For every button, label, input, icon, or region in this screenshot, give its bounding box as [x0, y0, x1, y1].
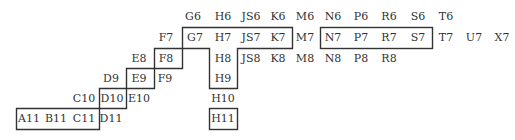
cell-label-b11: B11 — [45, 112, 67, 125]
cell-label-c11: C11 — [73, 112, 95, 125]
cell-label-js7: JS7 — [242, 31, 261, 44]
cell-label-js6: JS6 — [242, 10, 261, 23]
cell-label-k6: K6 — [270, 10, 285, 23]
cell-label-d11: D11 — [100, 112, 123, 125]
cell-label-t7: T7 — [439, 31, 453, 44]
cell-label-js8: JS8 — [242, 52, 261, 65]
grid-diagram: G6H6JS6K6M6N6P6R6S6T6F7G7H7JS7K7M7N7P7R7… — [0, 0, 515, 140]
cell-label-s7: S7 — [411, 31, 426, 44]
cell-label-r7: R7 — [381, 31, 396, 44]
cell-label-f8: F8 — [159, 52, 174, 65]
cell-label-r8: R8 — [381, 52, 396, 65]
cell-label-f7: F7 — [159, 31, 174, 44]
cell-label-m7: M7 — [296, 31, 314, 44]
cell-label-k7: K7 — [270, 31, 285, 44]
cell-label-f9: F9 — [158, 72, 173, 85]
cell-label-t6: T6 — [439, 10, 453, 23]
cell-label-g7: G7 — [187, 31, 203, 44]
cell-label-h8: H8 — [215, 52, 232, 65]
cell-label-m6: M6 — [296, 10, 314, 23]
cell-label-s6: S6 — [411, 10, 426, 23]
cell-label-h9: H9 — [215, 72, 232, 85]
cell-label-p6: P6 — [354, 10, 368, 23]
cell-label-h11: H11 — [211, 112, 235, 125]
cell-label-h10: H10 — [211, 92, 235, 105]
cell-label-n7: N7 — [325, 31, 342, 44]
cell-label-h6: H6 — [215, 10, 232, 23]
cell-label-c10: C10 — [73, 92, 95, 105]
cell-label-e8: E8 — [131, 52, 146, 65]
cell-label-k8: K8 — [270, 52, 285, 65]
cell-label-n6: N6 — [325, 10, 342, 23]
cell-label-u7: U7 — [466, 31, 482, 44]
cell-label-e9: E9 — [131, 72, 146, 85]
cell-label-n8: N8 — [325, 52, 342, 65]
cell-label-x7: X7 — [495, 31, 510, 44]
cell-label-h7: H7 — [215, 31, 232, 44]
cell-label-r6: R6 — [381, 10, 396, 23]
cell-label-d9: D9 — [103, 72, 119, 85]
cell-label-p7: P7 — [354, 31, 368, 44]
cell-label-p8: P8 — [354, 52, 368, 65]
cell-label-m8: M8 — [296, 52, 314, 65]
cell-label-g6: G6 — [185, 10, 201, 23]
cell-label-d10: D10 — [101, 92, 124, 105]
cell-label-a11: A11 — [18, 112, 40, 125]
cell-label-e10: E10 — [128, 92, 150, 105]
